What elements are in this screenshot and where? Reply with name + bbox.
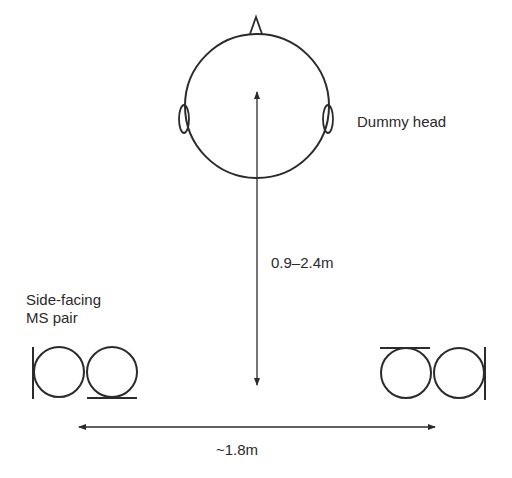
right-ms-pair [380,347,485,400]
right-mic-capsule-2 [434,348,484,398]
dummy-head-label: Dummy head [357,113,446,130]
recording-setup-diagram: Dummy head 0.9–2.4m Side-facing MS pair … [0,0,512,478]
mic-pair-label-line1: Side-facing [26,291,101,308]
horizontal-distance-label: ~1.8m [216,441,258,458]
nose-marker [250,17,262,34]
dummy-head [179,17,333,178]
left-ms-pair [33,347,137,399]
left-mic-capsule-1 [34,347,84,397]
mic-pair-label-line2: MS pair [26,309,78,326]
right-mic-capsule-1 [381,348,431,398]
left-mic-capsule-2 [87,347,137,397]
left-ear [179,105,189,133]
vertical-distance-label: 0.9–2.4m [271,254,334,271]
